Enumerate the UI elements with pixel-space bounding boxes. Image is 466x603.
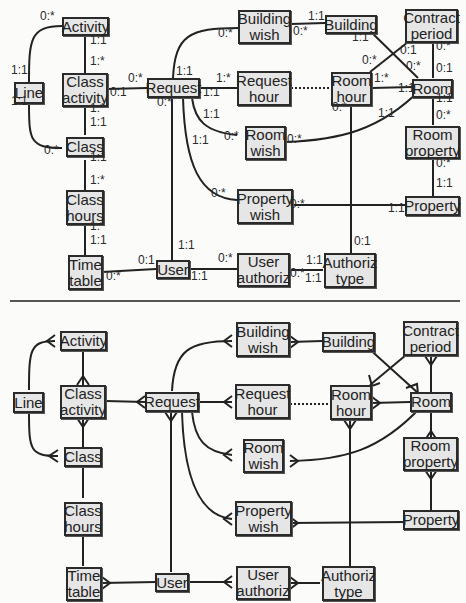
entity-user-crowsfoot[interactable]: User: [155, 573, 189, 592]
entity-property[interactable]: Property: [405, 196, 460, 216]
cardinality-label: 0:*: [436, 157, 451, 169]
cardinality-label: 1:1: [90, 34, 107, 46]
entity-line-crowsfoot[interactable]: Line: [13, 392, 44, 413]
entity-request[interactable]: Request: [147, 78, 200, 98]
cardinality-label: 0:*: [362, 54, 377, 66]
cardinality-label: 1:1: [11, 95, 28, 107]
cardinality-label: 0:1: [400, 44, 417, 56]
cardinality-label: 0:*: [290, 267, 305, 279]
cardinality-label: 0:*: [287, 133, 302, 145]
cardinality-label: 0:1: [138, 254, 155, 266]
cardinality-label: 1:1: [11, 64, 28, 76]
entity-time-table-crowsfoot[interactable]: Time table: [66, 567, 102, 601]
cardinality-label: 1:1: [398, 82, 415, 94]
entity-authoriz-type-crowsfoot[interactable]: Authoriz type: [322, 566, 375, 601]
cardinality-label: 1:1: [203, 86, 220, 98]
cardinality-label: 1:1: [436, 177, 453, 189]
entity-property-crowsfoot[interactable]: Property: [403, 510, 459, 530]
cardinality-label: 0:*: [44, 144, 59, 156]
cardinality-label: 0:*: [211, 187, 226, 199]
cardinality-label: 0:*: [293, 25, 308, 37]
entity-class-activity-crowsfoot[interactable]: Class activity: [60, 385, 106, 419]
entity-user-authoriz[interactable]: User authoriz: [237, 253, 290, 287]
entity-room-hour-crowsfoot[interactable]: Room hour: [330, 385, 372, 420]
entity-contract-period[interactable]: Contract period: [405, 9, 458, 43]
cardinality-label: 1:1: [191, 270, 208, 282]
entity-property-wish[interactable]: Property wish: [237, 189, 293, 224]
entity-class-crowsfoot[interactable]: Class: [64, 447, 102, 467]
cardinality-label: 1:1: [203, 108, 220, 120]
cardinality-label: 1:1: [90, 234, 107, 246]
cardinality-label: 1:1: [308, 10, 325, 22]
cardinality-label: 1:1: [90, 151, 107, 163]
entity-room-wish[interactable]: Room wish: [245, 126, 286, 160]
cardinality-label: 1:*: [90, 220, 105, 232]
cardinality-label: 1:1: [388, 202, 405, 214]
cardinality-label: 1:1: [352, 31, 369, 43]
cardinality-label: 0:1: [110, 86, 127, 98]
entity-room-crowsfoot[interactable]: Room: [410, 392, 452, 412]
entity-request-hour-crowsfoot[interactable]: Request hour: [235, 384, 290, 419]
entity-contract-period-crowsfoot[interactable]: Contract period: [403, 321, 458, 356]
entity-building[interactable]: Building: [325, 15, 377, 34]
cardinality-label: 1:*: [374, 72, 389, 84]
cardinality-label: 0:*: [106, 270, 121, 282]
cardinality-label: 0:*: [218, 27, 233, 39]
entity-user-authoriz-crowsfoot[interactable]: User authoriz: [236, 566, 290, 600]
entity-property-wish-crowsfoot[interactable]: Property wish: [235, 501, 292, 536]
cardinality-label: 1:*: [90, 102, 105, 114]
entity-room-property-crowsfoot[interactable]: Room property: [403, 437, 458, 471]
entity-user[interactable]: User: [156, 260, 190, 279]
entity-request-crowsfoot[interactable]: Request: [145, 392, 199, 412]
cardinality-label: 0:*: [436, 40, 451, 52]
cardinality-label: 0:*: [332, 101, 347, 113]
entity-request-hour[interactable]: Request hour: [237, 71, 291, 106]
cardinality-label: 0:*: [218, 252, 233, 264]
cardinality-label: 1:1: [378, 107, 395, 119]
cardinality-label: 1:1: [436, 92, 453, 104]
cardinality-label: 0:*: [40, 10, 55, 22]
entity-authoriz-type[interactable]: Authoriz type: [324, 253, 376, 288]
entity-room-wish-crowsfoot[interactable]: Room wish: [243, 439, 284, 473]
crows-foot-markers: [47, 335, 437, 589]
diagram-divider: [10, 300, 460, 302]
cardinality-label: 1:*: [90, 55, 105, 67]
cardinality-label: 1:1: [178, 239, 195, 251]
entity-building-wish[interactable]: Building wish: [238, 10, 291, 44]
cardinality-label: 0:*: [406, 60, 421, 72]
cardinality-label: 1:*: [216, 72, 231, 84]
entity-building-wish-crowsfoot[interactable]: Building wish: [236, 322, 290, 357]
cardinality-label: 1:1: [305, 272, 322, 284]
cardinality-label: 1:1: [176, 65, 193, 77]
entity-class-hours-crowsfoot[interactable]: Class hours: [64, 502, 102, 536]
entity-activity-crowsfoot[interactable]: Activity: [60, 331, 107, 351]
entity-time-table[interactable]: Time table: [68, 255, 103, 290]
cardinality-label: 0:*: [128, 72, 143, 84]
entity-building-crowsfoot[interactable]: Building: [322, 332, 375, 352]
cardinality-label: 1:1: [306, 254, 323, 266]
cardinality-label: 0:*: [436, 109, 451, 121]
cardinality-label: 0:1: [436, 62, 453, 74]
entity-room-property[interactable]: Room property: [405, 126, 460, 159]
cardinality-label: 0:1: [354, 235, 371, 247]
cardinality-label: 1:1: [90, 116, 107, 128]
cardinality-label: 0:*: [157, 96, 172, 108]
cardinality-label: 0:*: [290, 198, 305, 210]
cardinality-label: 0:*: [224, 130, 239, 142]
cardinality-label: 1:*: [90, 174, 105, 186]
cardinality-label: 1:1: [192, 134, 209, 146]
